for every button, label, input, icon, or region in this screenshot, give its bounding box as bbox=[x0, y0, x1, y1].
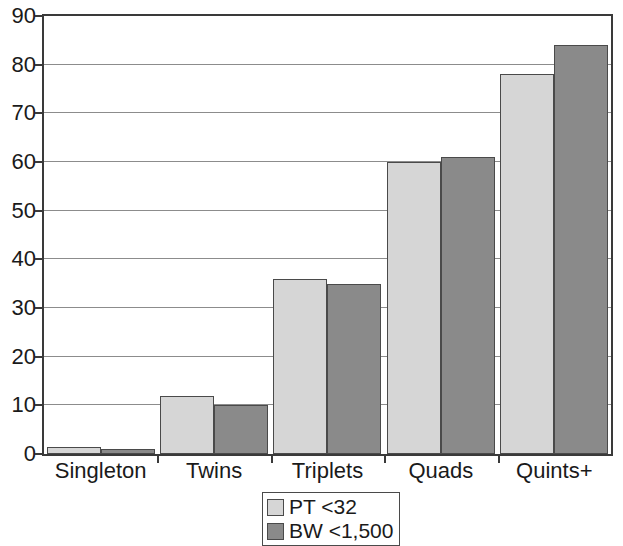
legend-item-pt: PT <32 bbox=[267, 495, 393, 519]
y-tick-mark bbox=[35, 307, 42, 309]
bar-group bbox=[384, 16, 497, 454]
y-tick-mark bbox=[35, 356, 42, 358]
legend-item-bw: BW <1,500 bbox=[267, 519, 393, 543]
x-tick-label: Quints+ bbox=[516, 458, 592, 484]
y-tick-label: 20 bbox=[12, 346, 36, 368]
plot-area bbox=[42, 14, 613, 456]
y-axis: 0102030405060708090 bbox=[0, 14, 36, 456]
x-tick-label: Quads bbox=[408, 458, 473, 484]
bar-group bbox=[271, 16, 384, 454]
bar bbox=[47, 447, 101, 454]
y-tick-label: 50 bbox=[12, 200, 36, 222]
legend-swatch-icon-pt bbox=[267, 499, 284, 516]
bar bbox=[160, 396, 214, 454]
x-tick-label: Triplets bbox=[292, 458, 363, 484]
legend-label-bw: BW <1,500 bbox=[289, 520, 393, 542]
x-axis-labels: SingletonTwinsTripletsQuadsQuints+ bbox=[42, 458, 613, 488]
y-tick-mark bbox=[35, 15, 42, 17]
bar bbox=[441, 157, 495, 454]
y-tick-label: 10 bbox=[12, 394, 36, 416]
y-tick-label: 40 bbox=[12, 248, 36, 270]
y-tick-label: 30 bbox=[12, 297, 36, 319]
bar bbox=[214, 405, 268, 454]
y-tick-mark bbox=[35, 112, 42, 114]
bar-group bbox=[498, 16, 611, 454]
x-tick-label: Twins bbox=[186, 458, 242, 484]
bar bbox=[101, 449, 155, 454]
y-tick-mark bbox=[35, 210, 42, 212]
x-tick-label: Singleton bbox=[55, 458, 147, 484]
y-tick-mark bbox=[35, 453, 42, 455]
y-tick-label: 70 bbox=[12, 102, 36, 124]
bar bbox=[327, 284, 381, 454]
legend-label-pt: PT <32 bbox=[289, 496, 357, 518]
y-tick-label: 90 bbox=[12, 5, 36, 27]
bar-group bbox=[44, 16, 157, 454]
bar bbox=[500, 74, 554, 454]
bars-layer bbox=[44, 16, 611, 454]
y-tick-mark bbox=[35, 258, 42, 260]
y-tick-mark bbox=[35, 404, 42, 406]
bar bbox=[273, 279, 327, 454]
bar bbox=[554, 45, 608, 454]
bar-group bbox=[157, 16, 270, 454]
bar bbox=[387, 162, 441, 454]
y-tick-mark bbox=[35, 161, 42, 163]
y-tick-mark bbox=[35, 64, 42, 66]
chart-legend: PT <32 BW <1,500 bbox=[262, 492, 400, 546]
y-tick-label: 60 bbox=[12, 151, 36, 173]
legend-swatch-icon-bw bbox=[267, 523, 284, 540]
y-tick-label: 80 bbox=[12, 54, 36, 76]
